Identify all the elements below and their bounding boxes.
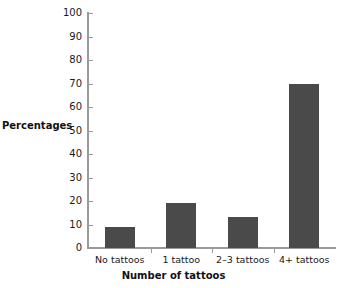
- x-tick-mark: [212, 249, 213, 253]
- y-tick-mark: [89, 154, 93, 155]
- y-tick-mark: [89, 225, 93, 226]
- y-tick-mark: [89, 107, 93, 108]
- y-tick-mark: [89, 60, 93, 61]
- x-axis-title: Number of tattoos: [0, 270, 347, 281]
- y-tick-label: 100: [56, 8, 82, 18]
- y-tick-label: 60: [56, 102, 82, 112]
- x-tick-label: No tattoos: [89, 255, 151, 265]
- bar: [166, 203, 196, 248]
- x-tick-label: 4+ tattoos: [274, 255, 336, 265]
- y-tick-label: 0: [56, 243, 82, 253]
- y-tick-label: 30: [56, 173, 82, 183]
- y-tick-mark: [89, 178, 93, 179]
- y-tick-mark: [89, 131, 93, 132]
- y-tick-label: 50: [56, 126, 82, 136]
- y-tick-mark: [89, 84, 93, 85]
- y-tick-mark: [89, 13, 93, 14]
- bar-chart-figure: Percentages 0102030405060708090100 No ta…: [0, 0, 347, 288]
- x-tick-mark: [151, 249, 152, 253]
- x-tick-mark: [274, 249, 275, 253]
- y-tick-label: 70: [56, 79, 82, 89]
- y-tick-label: 40: [56, 149, 82, 159]
- bar: [105, 227, 135, 248]
- y-tick-mark: [89, 201, 93, 202]
- y-tick-label: 10: [56, 220, 82, 230]
- y-tick-label: 80: [56, 55, 82, 65]
- x-tick-label: 1 tattoo: [151, 255, 213, 265]
- y-tick-label: 90: [56, 32, 82, 42]
- y-tick-mark: [89, 37, 93, 38]
- y-tick-label: 20: [56, 196, 82, 206]
- x-tick-label: 2–3 tattoos: [212, 255, 274, 265]
- bar: [289, 84, 319, 249]
- bar: [228, 217, 258, 248]
